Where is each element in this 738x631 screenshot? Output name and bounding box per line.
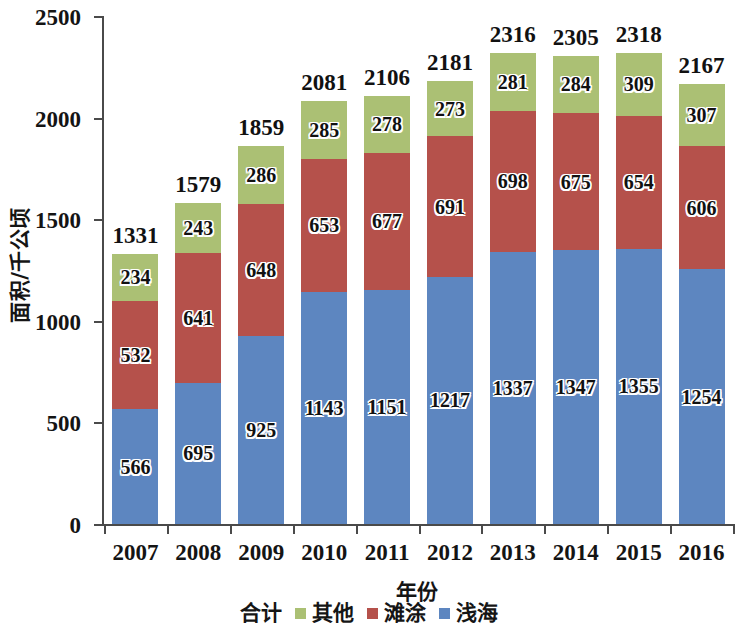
bar-segment-value-label: 307 [687,105,717,125]
bar-segment-value-label: 286 [246,165,276,185]
bar-segment[interactable]: 1254 [679,269,725,524]
y-axis-tick-label: 0 [70,513,82,539]
legend-swatch [367,608,378,619]
bar-total-label: 2181 [427,51,473,74]
bar-stack[interactable]: 13476752842305 [553,56,599,524]
y-axis-tick: 1500 [94,219,104,221]
bar-segment[interactable]: 675 [553,113,599,250]
bar-segment[interactable]: 691 [427,136,473,276]
bar-stack[interactable]: 13376982812316 [490,53,536,524]
bar-segment-value-label: 243 [183,218,213,238]
y-axis-title-text: 面积/千公顷 [3,207,33,323]
bar-segment-value-label: 285 [309,120,339,140]
legend-label: 浅海 [456,603,498,624]
legend-item[interactable]: 合计 [240,603,282,624]
legend-item[interactable]: 滩涂 [367,603,426,624]
bar-segment-value-label: 284 [561,74,591,94]
legend-label: 其他 [312,603,354,624]
stacked-bar-chart: 面积/千公顷 05001000150020002500 200720082009… [0,0,738,631]
bar-stack[interactable]: 12176912732181 [427,81,473,524]
bar-segment-value-label: 691 [435,197,465,217]
bar-total-label: 2106 [364,66,410,89]
bar-total-label: 2167 [679,54,725,77]
x-axis-tick [104,524,106,534]
y-axis-tick-label: 2500 [35,5,81,31]
legend-label: 滩涂 [384,603,426,624]
bar-segment-value-label: 654 [624,172,654,192]
legend-item[interactable]: 其他 [295,603,354,624]
x-axis-tick [419,524,421,534]
bar-segment-value-label: 641 [183,308,213,328]
y-axis-tick-label: 1000 [35,310,81,336]
bar-segment-value-label: 1347 [556,377,596,397]
bar-segment-value-label: 1355 [619,376,659,396]
bar-segment[interactable]: 234 [112,254,158,302]
legend-item[interactable]: 浅海 [439,603,498,624]
bar-segment-value-label: 675 [561,172,591,192]
legend-label: 合计 [240,603,282,624]
bar-segment[interactable]: 1143 [301,292,347,524]
bar-segment[interactable]: 532 [112,301,158,409]
y-axis-tick-label: 1500 [35,208,81,234]
bar-segment[interactable]: 243 [175,203,221,252]
bar-segment[interactable]: 1151 [364,290,410,524]
x-axis-tick [733,524,735,534]
bar-stack[interactable]: 11436532852081 [301,101,347,524]
chart-legend: 合计其他滩涂浅海 [0,603,738,624]
bar-segment[interactable]: 1217 [427,277,473,524]
x-axis-tick [670,524,672,534]
bar-segment-value-label: 566 [120,457,150,477]
bar-segment[interactable]: 278 [364,96,410,152]
bar-segment-value-label: 1151 [368,397,407,417]
y-axis-tick: 500 [94,422,104,424]
bar-segment[interactable]: 695 [175,383,221,524]
bar-segment[interactable]: 285 [301,101,347,159]
x-axis-tick [544,524,546,534]
y-axis-title: 面积/千公顷 [0,0,36,530]
bar-segment[interactable]: 307 [679,84,725,146]
bar-stack[interactable]: 6956412431579 [175,203,221,524]
bar-segment-value-label: 278 [372,114,402,134]
bar-segment[interactable]: 925 [238,336,284,524]
x-axis-tick [607,524,609,534]
bar-segment[interactable]: 284 [553,56,599,114]
bar-segment-value-label: 273 [435,99,465,119]
bar-total-label: 2305 [553,26,599,49]
bar-segment-value-label: 1254 [682,387,722,407]
bar-stack[interactable]: 11516772782106 [364,96,410,524]
x-axis-tick [356,524,358,534]
bar-segment[interactable]: 1347 [553,250,599,524]
bar-segment[interactable]: 273 [427,81,473,136]
x-axis-tick [167,524,169,534]
bar-segment-value-label: 532 [120,345,150,365]
x-axis-ticks: 2007200820092010201120122013201420152016 [104,16,733,524]
bar-stack[interactable]: 13556543092318 [616,53,662,524]
bar-segment[interactable]: 1355 [616,249,662,524]
bar-segment[interactable]: 566 [112,409,158,524]
bar-segment[interactable]: 677 [364,153,410,291]
bar-segment[interactable]: 698 [490,111,536,253]
bar-stack[interactable]: 5665322341331 [112,254,158,524]
bar-total-label: 1859 [238,116,284,139]
bar-segment-value-label: 281 [498,72,528,92]
bar-segment[interactable]: 606 [679,146,725,269]
x-axis-tick [293,524,295,534]
bar-segment[interactable]: 286 [238,146,284,204]
bar-total-label: 1579 [175,173,221,196]
bar-segment[interactable]: 648 [238,204,284,336]
y-axis-ticks: 05001000150020002500 [104,16,733,524]
bar-segment[interactable]: 641 [175,253,221,383]
bar-total-label: 1331 [112,224,158,247]
y-axis-tick-label: 2000 [35,107,81,133]
bar-stack[interactable]: 9256482861859 [238,146,284,524]
bar-segment[interactable]: 654 [616,116,662,249]
bar-segment[interactable]: 1337 [490,252,536,524]
y-axis-tick: 2000 [94,118,104,120]
bar-segment[interactable]: 309 [616,53,662,116]
bar-segment-value-label: 309 [624,74,654,94]
bar-total-label: 2318 [616,23,662,46]
bar-segment[interactable]: 281 [490,53,536,110]
legend-swatch [439,608,450,619]
bar-stack[interactable]: 12546063072167 [679,84,725,524]
bar-segment[interactable]: 653 [301,159,347,292]
